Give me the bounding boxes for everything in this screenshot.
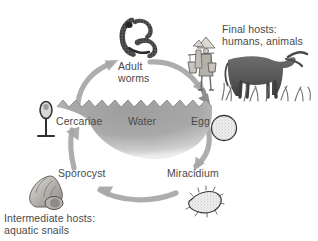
label-miracidium: Miracidium xyxy=(167,167,219,179)
annotation-final-hosts: Final hosts: humans, animals xyxy=(222,23,303,48)
annotation-intermediate-hosts: Intermediate hosts: aquatic snails xyxy=(4,212,95,237)
label-water: Water xyxy=(128,115,156,127)
label-cercariae: Cercariae xyxy=(56,115,102,127)
label-adult-worms-line2: worms xyxy=(118,72,149,84)
annotation-final-hosts-line1: Final hosts: xyxy=(222,23,303,35)
label-egg: Egg xyxy=(191,115,210,127)
annotation-final-hosts-line2: humans, animals xyxy=(222,35,303,47)
label-sporocyst: Sporocyst xyxy=(58,167,106,179)
label-adult-worms-line1: Adult xyxy=(118,60,149,72)
egg-illustration xyxy=(212,116,237,141)
annotation-intermediate-hosts-line2: aquatic snails xyxy=(4,224,95,236)
label-adult-worms: Adult worms xyxy=(118,60,149,85)
annotation-intermediate-hosts-line1: Intermediate hosts: xyxy=(4,212,95,224)
